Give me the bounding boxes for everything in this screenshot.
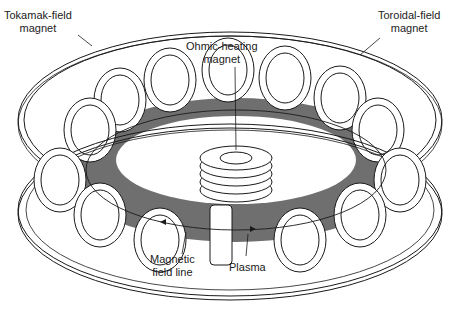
label-line: magnet: [186, 53, 258, 66]
label-ohmic-heating-magnet: Ohmic-heating magnet: [186, 40, 258, 66]
label-toroidal-field-magnet: Toroidal-field magnet: [378, 9, 440, 35]
label-tokamak-field-magnet: Tokamak-field magnet: [4, 9, 72, 35]
label-line: Toroidal-field: [378, 9, 440, 22]
label-plasma: Plasma: [229, 261, 266, 274]
label-line: magnet: [4, 22, 72, 35]
label-line: Magnetic: [150, 253, 195, 266]
label-magnetic-field-line: Magnetic field line: [150, 253, 195, 279]
label-line: field line: [150, 266, 195, 279]
ohmic-heating-stack: [200, 146, 272, 202]
label-line: Plasma: [229, 261, 266, 274]
label-line: Tokamak-field: [4, 9, 72, 22]
label-line: Ohmic-heating: [186, 40, 258, 53]
label-line: magnet: [378, 22, 440, 35]
